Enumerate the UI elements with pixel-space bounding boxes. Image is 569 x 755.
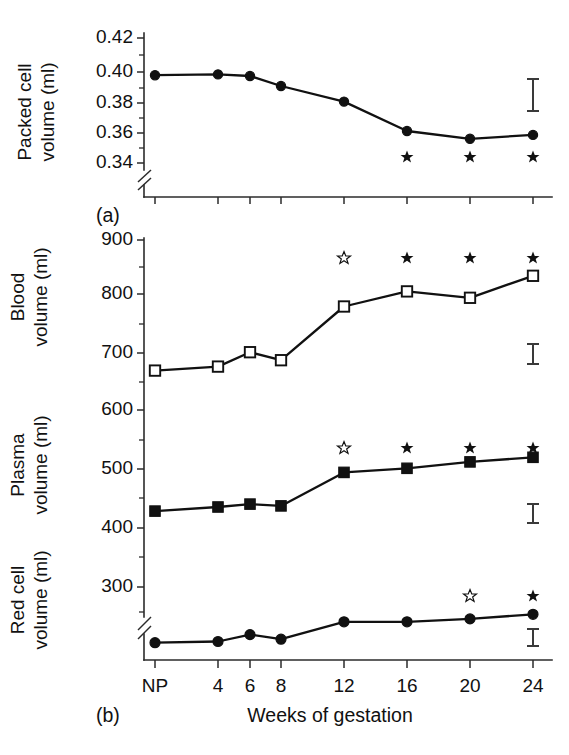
panel-b-ytick-label: 700 — [101, 341, 133, 362]
panel-b-ylabel-redcell-line2: volume (ml) — [30, 550, 51, 649]
panel-b-xtick-label: 6 — [245, 675, 256, 696]
data-point-marker — [528, 130, 537, 139]
panel-b-ylabel-blood-line1: Blood — [7, 273, 28, 322]
data-point-marker — [213, 637, 223, 647]
panel-b-ytick-label: 400 — [101, 516, 133, 537]
data-point-marker — [465, 134, 474, 143]
panel-b-error-bar-redcell — [527, 629, 539, 646]
data-point-marker — [245, 499, 255, 509]
significance-star-icon — [527, 151, 540, 163]
panel-b-ytick-label: 900 — [101, 228, 133, 249]
data-point-marker — [528, 609, 538, 619]
panel-b-ytick-label: 600 — [101, 398, 133, 419]
data-point-marker — [276, 81, 285, 90]
data-point-marker — [339, 467, 349, 477]
panel-b-ytick-label: 500 — [101, 457, 133, 478]
panel-b-error-bar-plasma — [527, 504, 539, 523]
panel-a-ytick-label: 0.34 — [96, 151, 133, 172]
figure-canvas: Packed cell volume (ml) 0.42 0.40 0.38 0… — [0, 0, 569, 755]
significance-star-icon — [401, 442, 414, 454]
significance-star-icon — [464, 590, 477, 602]
panel-b-ytick-label: 800 — [101, 282, 133, 303]
data-point-marker — [339, 301, 349, 311]
panel-a-ytick-label: 0.38 — [96, 91, 133, 112]
significance-star-icon — [401, 252, 414, 264]
panel-b-ylabel-blood: Blood volume (ml) — [7, 247, 51, 346]
significance-star-icon — [527, 590, 540, 602]
data-point-marker — [150, 71, 159, 80]
panel-b-ytick-label: 300 — [101, 575, 133, 596]
data-point-marker — [276, 634, 286, 644]
data-point-marker — [402, 617, 412, 627]
panel-b-ylabel-plasma: Plasma volume (ml) — [7, 415, 51, 514]
panel-a-tag: (a) — [96, 204, 120, 226]
data-point-marker — [213, 502, 223, 512]
data-point-marker — [465, 614, 475, 624]
panel-a-ytick-label: 0.42 — [96, 26, 133, 47]
data-point-marker — [402, 126, 411, 135]
significance-star-icon — [338, 252, 351, 264]
panel-a-ytick-label: 0.36 — [96, 121, 133, 142]
data-point-marker — [402, 463, 412, 473]
significance-star-icon — [464, 151, 477, 163]
panel-b-error-bar-blood — [527, 344, 539, 364]
data-point-marker — [245, 630, 255, 640]
data-point-marker — [150, 638, 160, 648]
data-point-marker — [276, 355, 286, 365]
panel-b-ylabel-plasma-line1: Plasma — [7, 433, 28, 497]
panel-b-series-plasma-volume — [155, 457, 533, 511]
panel-b-ylabel-plasma-line2: volume (ml) — [30, 415, 51, 514]
panel-a-ylabel-line1: Packed cell — [14, 63, 35, 160]
data-point-marker — [213, 70, 222, 79]
significance-star-icon — [464, 442, 477, 454]
panel-b-xtick-label: 8 — [276, 675, 287, 696]
data-point-marker — [150, 365, 160, 375]
panel-b-series-blood-volume — [155, 276, 533, 371]
data-point-marker — [150, 506, 160, 516]
data-point-marker — [245, 347, 255, 357]
figure-container: Packed cell volume (ml) 0.42 0.40 0.38 0… — [0, 0, 569, 755]
data-point-marker — [465, 293, 475, 303]
panel-b-xtick-label: 12 — [333, 675, 354, 696]
panel-b-xtick-label: NP — [142, 675, 168, 696]
panel-b-xaxis-title: Weeks of gestation — [247, 704, 412, 726]
panel-b: Blood volume (ml) Plasma volume (ml) Red… — [7, 228, 552, 726]
panel-a-ytick-label: 0.40 — [96, 60, 133, 81]
panel-b-xtick-label: 24 — [522, 675, 544, 696]
significance-star-icon — [338, 442, 351, 454]
data-point-marker — [528, 452, 538, 462]
panel-a-error-bar — [527, 79, 539, 111]
panel-b-xtick-label: 20 — [459, 675, 480, 696]
panel-b-ylabel-blood-line2: volume (ml) — [30, 247, 51, 346]
panel-b-xtick-label: 16 — [396, 675, 417, 696]
data-point-marker — [402, 286, 412, 296]
panel-b-ylabel-redcell-line1: Red cell — [7, 566, 28, 635]
panel-a-ylabel: Packed cell volume (ml) — [14, 62, 58, 161]
panel-a-ylabel-line2: volume (ml) — [37, 62, 58, 161]
data-point-marker — [276, 501, 286, 511]
significance-star-icon — [464, 252, 477, 264]
data-point-marker — [339, 617, 349, 627]
significance-star-icon — [527, 252, 540, 264]
panel-b-xtick-label: 4 — [213, 675, 224, 696]
data-point-marker — [213, 361, 223, 371]
panel-b-tag: (b) — [96, 704, 120, 726]
data-point-marker — [465, 457, 475, 467]
data-point-marker — [245, 71, 254, 80]
panel-b-ylabel-redcell: Red cell volume (ml) — [7, 550, 51, 649]
data-point-marker — [339, 97, 348, 106]
panel-a: Packed cell volume (ml) 0.42 0.40 0.38 0… — [14, 26, 552, 226]
significance-star-icon — [401, 151, 414, 163]
data-point-marker — [528, 271, 538, 281]
